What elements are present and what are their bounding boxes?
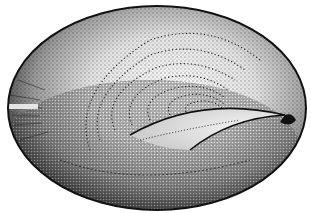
- illustration-canvas: Stippled pen illustration of a limpet sh…: [0, 0, 311, 213]
- limpet-shell-illustration: [0, 0, 311, 213]
- shell-body: [0, 6, 306, 213]
